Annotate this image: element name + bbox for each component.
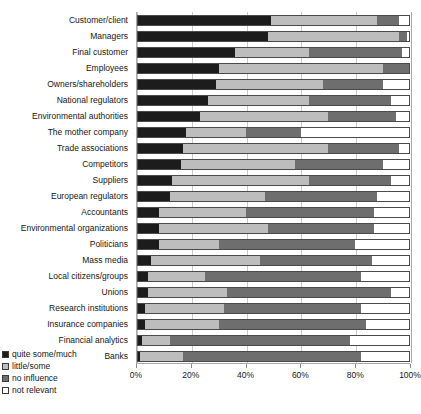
bar-segment-quite-some-much <box>137 255 151 266</box>
bar-segment-not-relevant <box>366 319 410 330</box>
legend-label: quite some/much <box>12 350 77 359</box>
bar-segment-quite-some-much <box>137 191 170 202</box>
bar-segment-little-some <box>159 239 219 250</box>
bar-segment-not-relevant <box>383 79 410 90</box>
legend-item-no_influence: no influence <box>2 373 132 384</box>
category-label: Trade associations <box>57 143 128 153</box>
bar-segment-no-influence <box>323 79 383 90</box>
category-label: Suppliers <box>93 175 128 185</box>
stacked-bar <box>137 271 410 282</box>
legend-swatch-icon <box>2 375 9 382</box>
bar-segment-no-influence <box>219 239 356 250</box>
bar-row <box>137 44 410 60</box>
legend-swatch-icon <box>2 363 9 370</box>
bar-segment-quite-some-much <box>137 319 145 330</box>
category-label: Managers <box>90 31 128 41</box>
bar-row <box>137 252 410 268</box>
bar-segment-little-some <box>172 175 309 186</box>
category-label: Environmental authorities <box>32 111 128 121</box>
bar-segment-quite-some-much <box>137 111 200 122</box>
bar-segment-little-some <box>208 95 309 106</box>
bar-segment-no-influence <box>399 31 407 42</box>
category-label: Customer/client <box>69 15 128 25</box>
bar-segment-little-some <box>183 143 328 154</box>
x-tickmark <box>191 364 192 368</box>
bar-segment-not-relevant <box>355 239 410 250</box>
stacked-bar <box>137 63 410 74</box>
stacked-bar <box>137 15 410 26</box>
bar-segment-no-influence <box>227 287 391 298</box>
category-label: Environmental organizations <box>21 223 128 233</box>
category-label: National regulators <box>57 95 128 105</box>
bar-segment-quite-some-much <box>137 15 271 26</box>
bar-row <box>137 60 410 76</box>
bar-segment-little-some <box>151 255 260 266</box>
bar-segment-no-influence <box>265 191 377 202</box>
bar-row <box>137 108 410 124</box>
bar-segment-no-influence <box>260 255 372 266</box>
legend-item-quite_some_much: quite some/much <box>2 349 132 360</box>
category-label: Competitors <box>82 159 128 169</box>
bar-segment-no-influence <box>170 335 350 346</box>
x-tick-label: 40% <box>237 370 254 380</box>
bar-segment-little-some <box>268 31 399 42</box>
bar-segment-no-influence <box>309 95 391 106</box>
bar-segment-quite-some-much <box>137 47 235 58</box>
bar-row <box>137 204 410 220</box>
category-label: Mass media <box>82 255 128 265</box>
stacked-bar <box>137 223 410 234</box>
stacked-bar <box>137 287 410 298</box>
bar-segment-not-relevant <box>407 31 410 42</box>
x-tick-label: 80% <box>347 370 364 380</box>
bar-segment-no-influence <box>183 351 360 362</box>
bar-segment-not-relevant <box>402 47 410 58</box>
bar-row <box>137 140 410 156</box>
x-tickmark <box>355 364 356 368</box>
x-axis-ticks: 0%20%40%60%80%100% <box>136 364 410 380</box>
bar-segment-little-some <box>145 303 224 314</box>
bar-segment-no-influence <box>205 271 361 282</box>
stacked-bar <box>137 319 410 330</box>
bar-segment-little-some <box>219 63 383 74</box>
category-axis-labels: Customer/clientManagersFinal customerEmp… <box>0 12 132 364</box>
x-tick-label: 100% <box>399 370 421 380</box>
bar-segment-little-some <box>145 319 219 330</box>
bar-rows <box>137 12 410 363</box>
stacked-bar <box>137 31 410 42</box>
bar-segment-no-influence <box>309 47 402 58</box>
category-label: Insurance companies <box>47 319 128 329</box>
bar-segment-quite-some-much <box>137 239 159 250</box>
bar-segment-not-relevant <box>350 335 410 346</box>
bar-segment-little-some <box>140 351 184 362</box>
bar-row <box>137 268 410 284</box>
stacked-bar <box>137 111 410 122</box>
bar-segment-no-influence <box>377 15 399 26</box>
stacked-bar <box>137 303 410 314</box>
category-label: Final customer <box>72 47 128 57</box>
bar-segment-little-some <box>159 223 268 234</box>
bar-segment-little-some <box>186 127 246 138</box>
bar-segment-no-influence <box>383 63 410 74</box>
stacked-bar <box>137 335 410 346</box>
bar-row <box>137 76 410 92</box>
bar-row <box>137 188 410 204</box>
bar-segment-not-relevant <box>361 271 410 282</box>
bar-segment-no-influence <box>295 159 382 170</box>
bar-row <box>137 124 410 140</box>
legend: quite some/muchlittle/someno influenceno… <box>2 349 132 397</box>
bar-row <box>137 172 410 188</box>
bar-segment-not-relevant <box>399 143 410 154</box>
bar-segment-little-some <box>142 335 169 346</box>
stacked-bar <box>137 207 410 218</box>
stacked-bar <box>137 191 410 202</box>
bar-segment-little-some <box>170 191 266 202</box>
legend-label: little/some <box>12 362 50 371</box>
category-label: Research institutions <box>49 303 128 313</box>
legend-swatch-icon <box>2 351 9 358</box>
legend-label: no influence <box>12 374 58 383</box>
bar-segment-not-relevant <box>391 287 410 298</box>
stacked-bar <box>137 351 410 362</box>
legend-label: not relevant <box>12 386 56 395</box>
bar-row <box>137 300 410 316</box>
